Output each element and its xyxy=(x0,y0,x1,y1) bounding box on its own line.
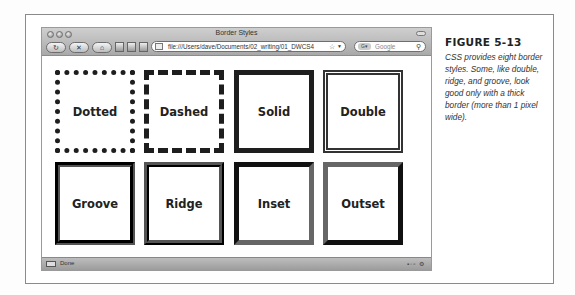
box-label: Double xyxy=(340,105,386,119)
print-icon[interactable] xyxy=(127,42,136,52)
bookmark-icon[interactable] xyxy=(115,42,124,52)
dashed-border-box: Dashed xyxy=(144,70,224,153)
box-label: Groove xyxy=(72,197,118,211)
box-label: Dotted xyxy=(73,105,117,119)
toolbar-toggle-button[interactable] xyxy=(416,31,426,36)
status-tray-icons[interactable]: ▪◦▫ ⚙ xyxy=(407,260,425,267)
search-engine-selector[interactable]: G▾ xyxy=(358,43,371,50)
stop-button[interactable]: ✕ xyxy=(69,42,89,53)
dotted-border-box: Dotted xyxy=(55,70,135,153)
search-input[interactable]: G▾ Google ⚲ xyxy=(354,41,426,52)
home-button[interactable]: ⌂ xyxy=(92,42,112,53)
star-icon[interactable]: ☆ xyxy=(329,42,335,51)
inset-border-box: Inset xyxy=(234,162,314,245)
browser-window: Border Styles ↻ ✕ ⌂ file:///Users/dave/D… xyxy=(41,27,432,271)
double-border-box: Double xyxy=(323,70,403,153)
search-icon[interactable]: ⚲ xyxy=(416,42,421,51)
ridge-border-box: Ridge xyxy=(144,162,224,245)
figure-caption: FIGURE 5-13 CSS provides eight border st… xyxy=(445,36,545,123)
box-label: Solid xyxy=(258,105,290,119)
solid-border-box: Solid xyxy=(234,70,314,153)
outset-border-box: Outset xyxy=(323,162,403,245)
navigation-toolbar: ↻ ✕ ⌂ xyxy=(46,40,148,54)
status-page-icon xyxy=(46,261,56,267)
stop-icon: ✕ xyxy=(76,44,82,51)
reload-icon: ↻ xyxy=(53,44,59,51)
chevron-down-icon[interactable]: ▼ xyxy=(337,42,342,51)
extension-icon[interactable] xyxy=(139,42,148,52)
box-label: Ridge xyxy=(165,197,202,211)
home-icon: ⌂ xyxy=(100,44,104,51)
status-bar: Done ▪◦▫ ⚙ xyxy=(42,257,431,270)
figure-description: CSS provides eight border styles. Some, … xyxy=(445,51,545,123)
title-bar: Border Styles ↻ ✕ ⌂ file:///Users/dave/D… xyxy=(42,28,431,56)
url-text: file:///Users/dave/Documents/02_writing/… xyxy=(168,43,314,50)
box-label: Dashed xyxy=(160,105,208,119)
status-text: Done xyxy=(60,260,74,266)
address-bar[interactable]: file:///Users/dave/Documents/02_writing/… xyxy=(151,41,346,52)
box-label: Outset xyxy=(341,197,385,211)
groove-border-box: Groove xyxy=(55,162,135,245)
search-placeholder: Google xyxy=(375,43,395,50)
figure-title: FIGURE 5-13 xyxy=(445,36,545,48)
page-viewport: Dotted Dashed Solid Double Groove Ridge … xyxy=(42,57,431,257)
window-title: Border Styles xyxy=(42,29,431,36)
reload-button[interactable]: ↻ xyxy=(46,42,66,53)
page-icon xyxy=(155,43,163,50)
box-label: Inset xyxy=(258,197,291,211)
